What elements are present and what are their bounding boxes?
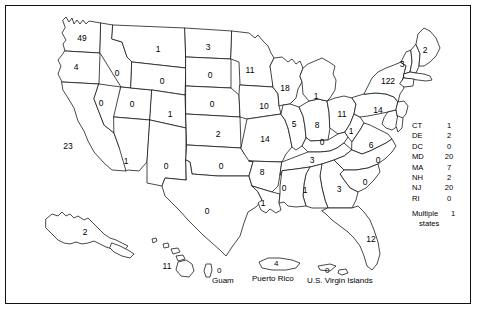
territory-value-usvi: 0	[325, 266, 329, 275]
legend-value-de: 2	[439, 131, 459, 141]
legend-value-ct: 1	[439, 121, 459, 131]
state-value-ak: 2	[83, 228, 88, 237]
legend-abbr-ma: MA	[412, 163, 439, 173]
state-value-co: 1	[168, 110, 173, 119]
state-value-nm: 0	[164, 162, 169, 171]
state-value-mi: 1	[314, 92, 319, 101]
state-value-ut: 0	[130, 100, 135, 109]
state-value-ia: 10	[259, 102, 268, 111]
legend-row-multiple-states: Multiple states 1	[412, 209, 468, 228]
us-map-container: 49 4 0 1 3 0 0 11 18 1 10 5 8 11 0 0 0 2…	[0, 0, 478, 311]
state-value-ny: 122	[381, 77, 395, 86]
us-map-svg	[0, 0, 478, 311]
state-value-or: 4	[74, 63, 79, 72]
state-value-tn: 3	[310, 156, 315, 165]
state-value-az: 1	[124, 157, 129, 166]
state-value-la: 1	[261, 199, 266, 208]
state-value-ky: 0	[320, 138, 325, 147]
territory-shape-guam	[204, 264, 212, 277]
state-value-nv: 0	[99, 99, 104, 108]
state-value-in: 8	[315, 121, 320, 130]
state-value-sc: 0	[363, 178, 368, 187]
legend-row-md: MD 20	[412, 152, 468, 162]
state-value-hi: 11	[163, 262, 172, 271]
state-value-ca: 23	[63, 142, 72, 151]
legend-row-nj: NJ 20	[412, 183, 468, 193]
state-shape-hi-4	[176, 255, 185, 261]
state-value-wi: 18	[280, 84, 289, 93]
territory-shape-usvi-2	[338, 269, 348, 275]
state-value-wy: 0	[160, 77, 165, 86]
state-value-va: 6	[369, 141, 374, 150]
state-value-mo: 14	[260, 135, 269, 144]
territory-label-usvi: U.S. Virgin Islands	[307, 276, 373, 285]
state-value-fl: 12	[366, 235, 375, 244]
state-shape-or	[58, 51, 100, 84]
legend-value-md: 20	[439, 152, 459, 162]
legend-value-ma: 7	[439, 163, 459, 173]
territory-shape-puerto-rico	[259, 258, 300, 270]
state-shape-mn	[231, 31, 274, 87]
legend-abbr-ct: CT	[412, 121, 439, 131]
legend-abbr-ri: RI	[412, 194, 439, 204]
legend-row-de: DE 2	[412, 131, 468, 141]
state-value-vt: 3	[400, 60, 405, 69]
legend-row-nh: NH 2	[412, 173, 468, 183]
state-value-ks: 2	[216, 130, 221, 139]
state-value-me: 2	[423, 46, 428, 55]
state-outlines	[46, 17, 440, 277]
map-legend: CT 1 DE 2 DC 0 MD 20 MA 7 NH 2 NJ 20 RI	[412, 121, 468, 228]
legend-abbr-nj: NJ	[412, 183, 439, 193]
legend-abbr-multiple-states: Multiple states	[412, 209, 443, 228]
territory-value-guam: 0	[217, 266, 221, 275]
state-value-sd: 0	[208, 71, 213, 80]
state-value-mn: 11	[246, 66, 255, 75]
legend-abbr-nh: NH	[412, 173, 439, 183]
legend-multiple-line1: Multiple	[412, 209, 438, 218]
state-value-id: 0	[115, 69, 120, 78]
state-value-ms: 0	[282, 184, 287, 193]
legend-value-ri: 0	[439, 194, 459, 204]
territory-label-puerto-rico: Puerto Rico	[252, 274, 294, 283]
state-shape-hi-3	[171, 248, 180, 254]
legend-value-nj: 20	[439, 183, 459, 193]
legend-row-dc: DC 0	[412, 142, 468, 152]
state-value-ga: 3	[337, 185, 342, 194]
state-value-wv: 1	[349, 127, 354, 136]
legend-abbr-de: DE	[412, 131, 439, 141]
legend-row-ct: CT 1	[412, 121, 468, 131]
state-value-ok: 0	[219, 162, 224, 171]
state-value-tx: 0	[205, 207, 210, 216]
state-value-mt: 1	[156, 45, 161, 54]
state-shape-me	[416, 28, 440, 66]
state-value-oh: 11	[338, 110, 347, 119]
state-shape-hi-1	[152, 238, 157, 243]
state-value-al: 1	[303, 186, 308, 195]
legend-value-dc: 0	[439, 142, 459, 152]
legend-multiple-line2: states	[412, 219, 443, 229]
legend-abbr-dc: DC	[412, 142, 439, 152]
legend-row-ma: MA 7	[412, 163, 468, 173]
state-value-ar: 8	[260, 168, 265, 177]
legend-value-multiple-states: 1	[443, 209, 463, 219]
territory-value-puerto-rico: 4	[274, 259, 278, 268]
state-shape-hi-2	[163, 243, 169, 248]
legend-abbr-md: MD	[412, 152, 439, 162]
state-value-nd: 3	[206, 43, 211, 52]
state-value-nc: 0	[376, 156, 381, 165]
state-value-pa: 14	[373, 106, 382, 115]
map-figure: 49 4 0 1 3 0 0 11 18 1 10 5 8 11 0 0 0 2…	[0, 0, 478, 311]
state-shape-ks	[186, 114, 241, 148]
legend-row-ri: RI 0	[412, 194, 468, 204]
state-shape-hi-big	[176, 260, 194, 277]
legend-value-nh: 2	[439, 173, 459, 183]
state-value-ne: 0	[210, 100, 215, 109]
state-value-il: 5	[292, 120, 297, 129]
territory-label-guam: Guam	[212, 276, 234, 285]
state-shape-nm	[147, 120, 186, 186]
state-value-wa: 49	[77, 34, 86, 43]
